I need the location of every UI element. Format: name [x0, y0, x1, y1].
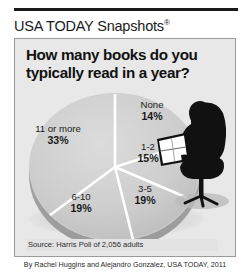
- brand-name: USA TODAY Snapshots: [14, 18, 164, 34]
- source-text: Source: Harris Poll of 2,056 adults: [28, 240, 218, 250]
- pie-chart: None 14% 1-2 15% 3-5 19% 6-10 19% 11 or …: [15, 83, 235, 257]
- slice-label-6-10: 6-10 19%: [59, 191, 103, 214]
- slice-category: 11 or more: [21, 123, 95, 134]
- brand-title: USA TODAY Snapshots®: [14, 14, 238, 35]
- page-title: How many books do you typically read in …: [26, 46, 226, 81]
- masthead-rule: [14, 8, 238, 11]
- snapshot-panel: How many books do you typically read in …: [14, 38, 236, 257]
- masthead: USA TODAY Snapshots®: [14, 8, 238, 35]
- slice-percent: 33%: [21, 135, 95, 146]
- slice-category: 6-10: [59, 191, 103, 202]
- source-strip: Source: Harris Poll of 2,056 adults: [26, 239, 218, 251]
- reader-illustration: [155, 97, 236, 213]
- slice-percent: 19%: [59, 203, 103, 214]
- registered-trademark-icon: ®: [164, 18, 170, 27]
- byline: By Rachel Huggins and Alejandro Gonzalez…: [0, 260, 250, 270]
- slice-label-11-or-more: 11 or more 33%: [21, 123, 95, 146]
